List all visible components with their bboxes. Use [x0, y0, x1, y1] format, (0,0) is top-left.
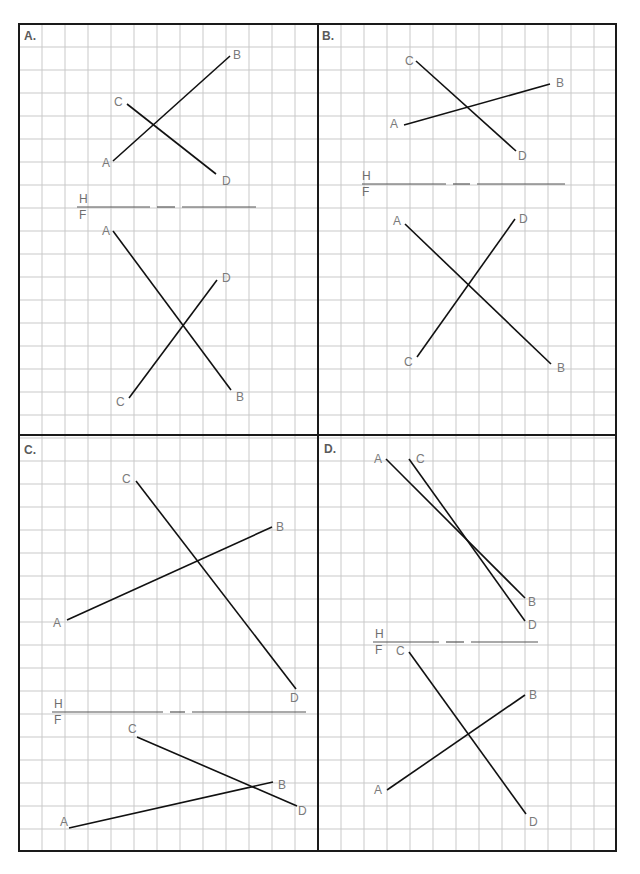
point-label: B — [528, 595, 536, 609]
fold-label-horizontal: H — [54, 697, 63, 711]
line-segment-ab — [113, 231, 231, 390]
line-segment-cd — [409, 652, 526, 814]
line-segment-ab — [67, 527, 272, 620]
point-label: A — [102, 156, 110, 170]
point-label: A — [374, 452, 382, 466]
point-label: D — [519, 212, 528, 226]
point-label: D — [529, 815, 538, 829]
fold-line-hf: HF — [362, 169, 565, 199]
point-label: D — [298, 804, 307, 818]
point-label: C — [404, 355, 413, 369]
fold-label-frontal: F — [362, 185, 369, 199]
panel-c: C.HFABCDABCD — [24, 443, 307, 829]
fold-label-frontal: F — [54, 713, 61, 727]
view-frontal: ABCD — [60, 722, 307, 829]
point-label: A — [374, 783, 382, 797]
line-segment-cd — [409, 459, 525, 621]
point-label: A — [102, 224, 110, 238]
panel-title: A. — [24, 29, 36, 43]
view-frontal: ABCD — [102, 224, 244, 409]
fold-label-horizontal: H — [375, 627, 384, 641]
line-segment-cd — [129, 280, 217, 398]
point-label: B — [278, 778, 286, 792]
fold-label-frontal: F — [79, 208, 86, 222]
point-label: B — [557, 361, 565, 375]
line-segment-cd — [416, 61, 516, 151]
fold-label-horizontal: H — [362, 169, 371, 183]
point-label: D — [222, 174, 231, 188]
panel-title: C. — [24, 443, 36, 457]
line-segment-cd — [417, 219, 515, 357]
point-label: B — [236, 390, 244, 404]
point-label: D — [518, 149, 527, 163]
panel-title: B. — [322, 29, 334, 43]
fold-line-hf: HF — [77, 192, 256, 222]
view-horizontal: ABCD — [102, 48, 241, 188]
point-label: C — [416, 452, 425, 466]
point-label: B — [556, 76, 564, 90]
fold-line-hf: HF — [52, 697, 306, 727]
point-label: C — [396, 644, 405, 658]
point-label: C — [116, 395, 125, 409]
point-label: D — [290, 691, 299, 705]
line-segment-cd — [137, 737, 297, 806]
line-segment-ab — [69, 782, 273, 828]
fold-label-frontal: F — [375, 643, 382, 657]
panel-title: D. — [324, 442, 336, 456]
panel-a: A.HFABCDABCD — [24, 29, 256, 409]
panel-d: D.HFABCDABCD — [324, 442, 538, 829]
point-label: A — [60, 815, 68, 829]
line-segment-ab — [113, 56, 230, 161]
point-label: C — [405, 54, 414, 68]
point-label: A — [53, 616, 61, 630]
point-label: D — [528, 618, 537, 632]
point-label: D — [222, 271, 231, 285]
point-label: A — [393, 214, 401, 228]
point-label: B — [529, 688, 537, 702]
fold-label-horizontal: H — [79, 192, 88, 206]
point-label: C — [114, 95, 123, 109]
orthographic-exercise-figure: A.HFABCDABCDB.HFABCDABCDC.HFABCDABCDD.HF… — [0, 0, 640, 874]
point-label: B — [276, 520, 284, 534]
point-label: C — [122, 472, 131, 486]
line-segment-ab — [404, 84, 550, 125]
point-label: B — [233, 48, 241, 62]
point-label: A — [390, 117, 398, 131]
point-label: C — [128, 722, 137, 736]
